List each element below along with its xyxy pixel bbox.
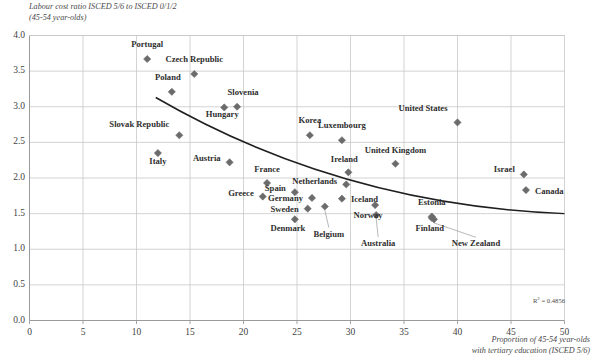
point-label-germany: Germany: [268, 194, 303, 204]
point-label-austria: Austria: [193, 154, 221, 164]
y-axis-title-line1: Labour cost ratio ISCED 5/6 to ISCED 0/1…: [29, 2, 177, 11]
y-axis-title: Labour cost ratio ISCED 5/6 to ISCED 0/1…: [29, 1, 177, 23]
x-tick-label: 10: [122, 327, 152, 337]
leader-lines: [325, 210, 476, 237]
data-marker: [308, 194, 315, 201]
point-label-slovak-republic: Slovak Republic: [109, 120, 169, 130]
data-marker: [343, 181, 350, 188]
scatter-chart: Labour cost ratio ISCED 5/6 to ISCED 0/1…: [0, 0, 593, 359]
data-marker: [392, 160, 399, 167]
x-tick-label: 15: [175, 327, 205, 337]
point-label-belgium: Belgium: [314, 230, 345, 240]
point-label-portugal: Portugal: [131, 40, 163, 50]
x-tick-label: 5: [68, 327, 98, 337]
y-tick-label: 1.5: [1, 208, 25, 218]
data-marker: [226, 159, 233, 166]
point-label-united-kingdom: United Kingdom: [365, 146, 426, 156]
point-label-slovenia: Slovenia: [228, 88, 259, 98]
data-marker: [522, 187, 529, 194]
data-marker: [520, 171, 527, 178]
y-tick-label: 3.5: [1, 65, 25, 75]
point-label-greece: Greece: [228, 189, 254, 199]
y-tick-label: 0.5: [1, 279, 25, 289]
y-tick-label: 2.5: [1, 136, 25, 146]
point-label-czech-republic: Czech Republic: [166, 55, 224, 65]
y-tick-label: 2.0: [1, 172, 25, 182]
point-label-israel: Israel: [494, 165, 515, 175]
point-label-canada: Canada: [535, 187, 564, 197]
data-marker: [144, 55, 151, 62]
y-tick-label: 0.0: [1, 315, 25, 325]
x-tick-label: 25: [282, 327, 312, 337]
y-tick-label: 3.0: [1, 101, 25, 111]
point-label-poland: Poland: [155, 73, 181, 83]
point-label-united-states: United States: [399, 104, 448, 114]
point-label-finland: Finland: [415, 224, 444, 234]
point-label-luxembourg: Luxembourg: [318, 121, 366, 131]
y-tick-label: 1.0: [1, 243, 25, 253]
x-axis-title-line2: with tertiary education (ISCED 5/6): [472, 346, 590, 355]
x-tick-label: 35: [389, 327, 419, 337]
y-axis-title-line2: (45-54 year-olds): [29, 13, 86, 22]
point-label-estonia: Estonia: [418, 198, 446, 208]
r-squared-value: = 0.4856: [540, 297, 565, 304]
point-label-denmark: Denmark: [270, 224, 305, 234]
point-label-hungary: Hungary: [206, 110, 239, 120]
x-tick-label: 30: [336, 327, 366, 337]
point-label-italy: Italy: [149, 157, 166, 167]
data-marker: [306, 132, 313, 139]
point-label-norway: Norway: [354, 211, 383, 221]
x-tick-label: 0: [15, 327, 45, 337]
data-marker: [304, 205, 311, 212]
data-marker: [259, 193, 266, 200]
data-marker: [176, 132, 183, 139]
point-label-sweden: Sweden: [271, 205, 299, 215]
x-tick-label: 20: [229, 327, 259, 337]
x-tick-label: 50: [550, 327, 580, 337]
y-tick-label: 4.0: [1, 30, 25, 40]
x-axis-title: Proportion of 45-54 year-oldswith tertia…: [430, 334, 590, 356]
point-label-ireland: Ireland: [331, 155, 358, 165]
x-tick-label: 40: [443, 327, 473, 337]
data-marker: [338, 195, 345, 202]
data-marker: [321, 203, 328, 210]
r-squared-annotation: R2 = 0.4856: [533, 296, 565, 304]
point-label-netherlands: Netherlands: [292, 177, 337, 187]
data-marker: [454, 119, 461, 126]
x-tick-label: 45: [496, 327, 526, 337]
data-markers: [144, 55, 530, 223]
point-label-iceland: Iceland: [351, 195, 378, 205]
point-label-new-zealand: New Zealand: [452, 239, 500, 249]
data-marker: [168, 88, 175, 95]
point-label-australia: Australia: [361, 239, 395, 249]
point-label-france: France: [254, 165, 280, 175]
